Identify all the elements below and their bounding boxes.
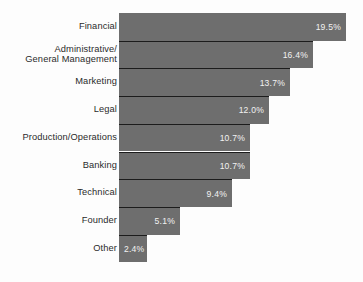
category-label: Marketing: [1, 76, 117, 87]
bar-banking: 10.7%: [119, 152, 250, 180]
category-label: Legal: [1, 104, 117, 115]
bar-chart: Financial 19.5% Administrative/ General …: [0, 0, 363, 282]
bar-container: 12.0%: [119, 96, 269, 124]
bar-row: Administrative/ General Management 16.4%: [0, 41, 363, 69]
category-label: Production/Operations: [1, 132, 117, 143]
category-label: Banking: [1, 160, 117, 171]
bar-other: 2.4%: [119, 235, 147, 263]
bar-container: 19.5%: [119, 13, 346, 41]
bar-row: Technical 9.4%: [0, 179, 363, 207]
bar-row: Legal 12.0%: [0, 96, 363, 124]
bar-value-label: 10.7%: [220, 133, 245, 143]
bar-row: Founder 5.1%: [0, 207, 363, 235]
category-label: Founder: [1, 215, 117, 226]
bar-value-label: 9.4%: [207, 189, 227, 199]
chart-plot-area: Financial 19.5% Administrative/ General …: [0, 0, 363, 282]
category-label: Financial: [1, 21, 117, 32]
bar-value-label: 16.4%: [283, 50, 308, 60]
bar-row: Production/Operations 10.7%: [0, 124, 363, 152]
bar-production-operations: 10.7%: [119, 124, 250, 152]
bar-row: Banking 10.7%: [0, 152, 363, 180]
bar-value-label: 5.1%: [155, 216, 175, 226]
bar-container: 10.7%: [119, 124, 250, 152]
bar-value-label: 2.4%: [124, 244, 144, 254]
category-label: Technical: [1, 187, 117, 198]
bar-container: 5.1%: [119, 207, 180, 235]
category-label: Administrative/ General Management: [1, 44, 117, 65]
bar-container: 9.4%: [119, 179, 232, 207]
bar-financial: 19.5%: [119, 13, 346, 41]
bar-value-label: 19.5%: [316, 22, 341, 32]
bar-founder: 5.1%: [119, 207, 180, 235]
bar-technical: 9.4%: [119, 179, 232, 207]
category-label: Other: [1, 243, 117, 254]
bar-value-label: 10.7%: [220, 161, 245, 171]
bar-value-label: 12.0%: [239, 105, 264, 115]
bar-marketing: 13.7%: [119, 68, 290, 96]
bar-legal: 12.0%: [119, 96, 269, 124]
bar-value-label: 13.7%: [260, 78, 285, 88]
bar-container: 16.4%: [119, 41, 313, 69]
bar-container: 10.7%: [119, 152, 250, 180]
bar-container: 2.4%: [119, 235, 147, 263]
bar-row: Marketing 13.7%: [0, 68, 363, 96]
bar-row: Financial 19.5%: [0, 13, 363, 41]
bar-row: Other 2.4%: [0, 235, 363, 263]
bar-container: 13.7%: [119, 68, 290, 96]
bar-administrative-general-management: 16.4%: [119, 41, 313, 69]
